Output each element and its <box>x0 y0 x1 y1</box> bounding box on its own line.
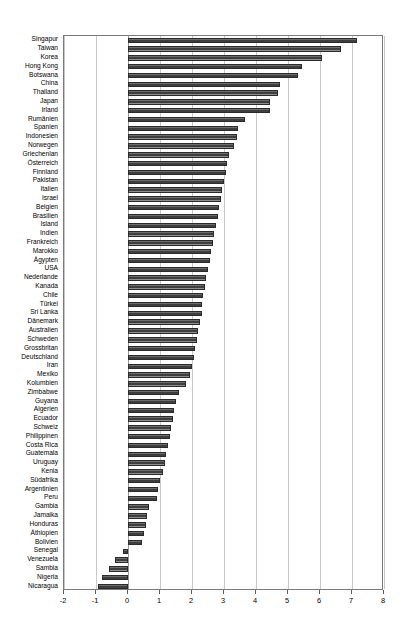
x-tick-mark <box>159 590 160 594</box>
bar <box>128 434 170 439</box>
x-tick-mark <box>319 590 320 594</box>
bar <box>128 284 205 289</box>
bar <box>128 152 229 157</box>
bar <box>128 381 186 386</box>
bar <box>109 566 128 571</box>
x-tick-mark <box>383 590 384 594</box>
bar <box>128 108 270 113</box>
bar <box>123 549 128 554</box>
bar <box>128 223 216 228</box>
x-tick-label: 5 <box>285 596 289 605</box>
bar <box>128 214 218 219</box>
bar <box>128 311 202 316</box>
value-axis: -2-1012345678 <box>63 590 383 612</box>
bar <box>128 275 206 280</box>
bar <box>128 355 194 360</box>
bar <box>128 170 226 175</box>
bar <box>128 126 238 131</box>
bar <box>128 38 357 43</box>
bar <box>128 337 197 342</box>
bar <box>128 364 192 369</box>
bar <box>128 390 179 395</box>
x-tick-label: -1 <box>92 596 99 605</box>
x-tick-label: 6 <box>317 596 321 605</box>
bar <box>128 540 142 545</box>
bar <box>128 346 195 351</box>
bar <box>128 205 219 210</box>
bar <box>128 302 202 307</box>
x-tick-mark <box>223 590 224 594</box>
x-tick-label: 7 <box>349 596 353 605</box>
x-tick-mark <box>95 590 96 594</box>
category-label: Nicaragua <box>28 581 58 591</box>
bar <box>128 258 210 263</box>
bar <box>128 319 200 324</box>
x-tick-label: 3 <box>221 596 225 605</box>
bar <box>128 496 157 501</box>
bar <box>128 469 163 474</box>
bar <box>128 399 176 404</box>
bar <box>115 557 128 562</box>
bar <box>128 187 222 192</box>
x-tick-mark <box>63 590 64 594</box>
bar <box>128 452 166 457</box>
bar <box>128 328 198 333</box>
x-tick-mark <box>127 590 128 594</box>
x-tick-label: 4 <box>253 596 257 605</box>
x-tick-mark <box>191 590 192 594</box>
bar <box>128 161 227 166</box>
x-tick-label: -2 <box>60 596 67 605</box>
bar <box>128 117 245 122</box>
bar <box>128 372 190 377</box>
bar <box>128 143 234 148</box>
bar <box>128 416 173 421</box>
x-tick-label: 1 <box>157 596 161 605</box>
bar <box>128 82 280 87</box>
bar <box>128 425 171 430</box>
bar-series <box>64 36 382 589</box>
bar <box>128 504 149 509</box>
bar <box>128 99 270 104</box>
bar <box>128 179 224 184</box>
bar <box>128 267 208 272</box>
bar-chart: SingapurTaiwanKoreaHong KongBotswanaChin… <box>0 0 408 633</box>
bar <box>128 73 298 78</box>
x-tick-mark <box>255 590 256 594</box>
bar <box>128 487 158 492</box>
bar <box>128 134 237 139</box>
bar <box>128 249 211 254</box>
bar <box>128 64 302 69</box>
x-tick-label: 0 <box>125 596 129 605</box>
bar <box>128 513 147 518</box>
bar <box>128 196 221 201</box>
x-tick-label: 8 <box>381 596 385 605</box>
x-tick-label: 2 <box>189 596 193 605</box>
bar <box>128 231 214 236</box>
x-tick-mark <box>287 590 288 594</box>
bar <box>128 460 165 465</box>
bar <box>128 240 213 245</box>
bar <box>98 584 128 589</box>
bar <box>128 443 168 448</box>
bar <box>128 522 146 527</box>
plot-area <box>63 35 383 590</box>
bar <box>102 575 128 580</box>
x-tick-mark <box>351 590 352 594</box>
bar <box>128 478 160 483</box>
bar <box>128 55 322 60</box>
bar <box>128 293 203 298</box>
bar <box>128 46 341 51</box>
bar <box>128 531 144 536</box>
bar <box>128 90 278 95</box>
bar <box>128 408 174 413</box>
gridline-8 <box>384 36 385 589</box>
category-axis-labels: SingapurTaiwanKoreaHong KongBotswanaChin… <box>0 35 61 590</box>
